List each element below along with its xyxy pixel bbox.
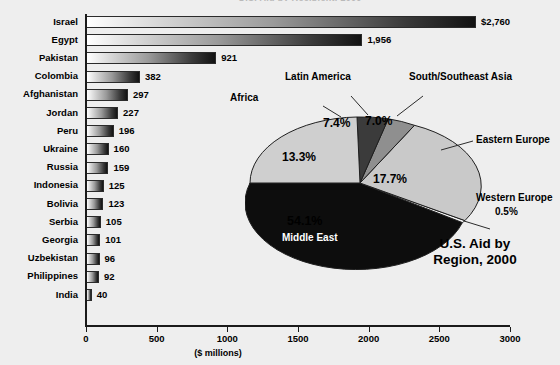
bar-category-label-text: Uzbekistan — [0, 252, 78, 263]
pct-western-europe: 0.5% — [495, 206, 518, 217]
bar — [86, 234, 100, 246]
x-axis-tick-label: 1000 — [217, 333, 238, 344]
bar-category-label-text: Afghanistan — [0, 88, 78, 99]
x-axis-tick-label: 2000 — [358, 333, 379, 344]
bar-category-label: Russia — [0, 161, 82, 172]
bar — [86, 52, 216, 64]
bar-category-label: Israel — [0, 16, 82, 27]
bar-category-label: Serbia — [0, 216, 82, 227]
bar-value-label: 196 — [119, 125, 135, 137]
leader-western-europe — [464, 221, 490, 229]
bar — [86, 271, 99, 283]
bar-category-label: India — [0, 289, 82, 300]
x-axis-tick-label: 500 — [149, 333, 165, 344]
bar — [86, 198, 103, 210]
x-axis-tick — [298, 327, 299, 332]
bar — [86, 89, 128, 101]
bar-value-label: 105 — [106, 216, 122, 228]
x-axis-tick-label: 1500 — [287, 333, 308, 344]
pie-graphic — [245, 88, 560, 318]
bar-category-label: Egypt — [0, 34, 82, 45]
bar — [86, 143, 109, 155]
pie-title-line2: Region, 2000 — [405, 252, 545, 268]
bar-value-label: 227 — [123, 107, 139, 119]
bar-category-label-text: Bolivia — [0, 198, 78, 209]
bar-category-label: Philippines — [0, 270, 82, 281]
x-axis-tick — [157, 327, 158, 332]
bar — [86, 125, 114, 137]
bar — [86, 180, 104, 192]
pct-south-southeast-asia: 7.0% — [365, 114, 392, 128]
bar — [86, 71, 140, 83]
bar-category-label-text: Ukraine — [0, 143, 78, 154]
bar-value-label: 1,956 — [367, 34, 391, 46]
callout-eastern-europe: Eastern Europe — [476, 134, 550, 145]
pie-title-line1: U.S. Aid by — [405, 236, 545, 252]
bar-value-label: 125 — [109, 180, 125, 192]
bar-category-label-text: Indonesia — [0, 179, 78, 190]
bar-category-label-text: Peru — [0, 125, 78, 136]
bar-value-label: 297 — [133, 89, 149, 101]
bar-category-label: Afghanistan — [0, 88, 82, 99]
bar-category-label: Georgia — [0, 234, 82, 245]
callout-western-europe: Western Europe — [476, 192, 553, 203]
x-axis-title-text: ($ millions) — [194, 348, 242, 358]
x-axis-tick — [227, 327, 228, 332]
x-axis-tick — [369, 327, 370, 332]
bar-category-label-text: Philippines — [0, 270, 78, 281]
bar-category-label-text: Georgia — [0, 234, 78, 245]
bar-category-label-text: Egypt — [0, 34, 78, 45]
callout-south-southeast-asia: South/Southeast Asia — [409, 71, 512, 82]
leader-south-southeast-asia — [397, 96, 423, 116]
x-axis-tick-label: 3000 — [499, 333, 520, 344]
pie-chart-title: U.S. Aid by Region, 2000 — [405, 236, 545, 268]
bar — [86, 216, 101, 228]
bar-value-label: 123 — [108, 198, 124, 210]
bar — [86, 16, 476, 28]
callout-middle-east: Middle East — [282, 232, 338, 243]
bar-value-label: 96 — [105, 253, 116, 265]
x-axis-tick — [510, 327, 511, 332]
bar — [86, 253, 100, 265]
bar — [86, 162, 108, 174]
leader-latin-america — [351, 96, 368, 115]
x-axis-tick — [439, 327, 440, 332]
x-axis-tick — [86, 327, 87, 332]
bar-category-label: Ukraine — [0, 143, 82, 154]
bar-category-label-text: Colombia — [0, 70, 78, 81]
pct-middle-east: 54.1% — [287, 214, 322, 228]
bar-value-label: 40 — [97, 289, 108, 301]
bar-category-label: Pakistan — [0, 52, 82, 63]
bar-category-label: Jordan — [0, 107, 82, 118]
pct-eastern-europe: 17.7% — [373, 172, 407, 186]
bar-category-label: Colombia — [0, 70, 82, 81]
x-axis-tick-label: 0 — [83, 333, 88, 344]
bar-category-label-text: Pakistan — [0, 52, 78, 63]
bar-category-label: Bolivia — [0, 198, 82, 209]
bar-category-label-text: Jordan — [0, 107, 78, 118]
bar-value-label: 101 — [105, 234, 121, 246]
bar-category-label-text: Russia — [0, 161, 78, 172]
pct-latin-america: 7.4% — [323, 116, 350, 130]
bar-value-label: 382 — [145, 71, 161, 83]
bar-category-label: Uzbekistan — [0, 252, 82, 263]
bar-value-label: 159 — [113, 162, 129, 174]
pct-africa: 13.3% — [282, 150, 316, 164]
callout-africa: Africa — [230, 92, 258, 103]
bar-value-label: $2,760 — [481, 16, 510, 28]
callout-latin-america: Latin America — [285, 71, 351, 82]
bar-category-label-text: India — [0, 289, 78, 300]
bar — [86, 107, 118, 119]
bar-value-label: 921 — [221, 52, 237, 64]
y-axis-line — [85, 14, 87, 326]
pie-chart: Africa Latin America South/Southeast Asi… — [245, 88, 560, 318]
bar-category-label-text: Israel — [0, 16, 78, 27]
bar-category-label: Peru — [0, 125, 82, 136]
bar — [86, 34, 362, 46]
x-axis-title: ($ millions) — [0, 348, 560, 358]
bar-value-label: 160 — [114, 143, 130, 155]
bar-category-label-text: Serbia — [0, 216, 78, 227]
x-axis-tick-label: 2500 — [429, 333, 450, 344]
bar-value-label: 92 — [104, 271, 115, 283]
bar-category-label: Indonesia — [0, 179, 82, 190]
